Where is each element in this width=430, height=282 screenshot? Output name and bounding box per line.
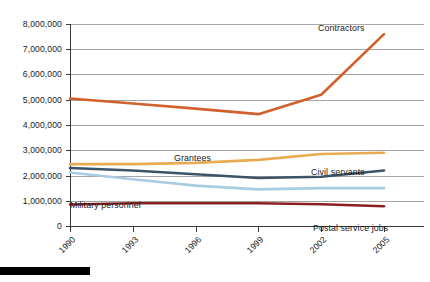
series-label-contractors: Contractors [318,23,365,33]
x-axis-label: 2002 [308,234,329,255]
y-axis-label: 6,000,000 [23,69,62,79]
x-axis-labels: 1990 1993 1996 1999 2002 2005 [57,234,392,255]
y-tickmarks [66,24,70,226]
x-axis-label: 2005 [371,234,392,255]
y-axis-label: 7,000,000 [23,44,62,54]
data-series-group [70,34,384,206]
x-axis-label: 1999 [245,234,266,255]
y-axis-label: 4,000,000 [23,120,62,130]
y-axis-label: 0 [57,221,62,231]
x-axis-label: 1993 [120,234,141,255]
series-annotations: ContractorsGranteesCivil servantsMilitar… [70,23,389,233]
series-label-civil-servants: Civil servants [311,167,365,177]
y-axis-label: 8,000,000 [23,19,62,29]
series-line-grantees [70,153,384,164]
y-axis-label: 3,000,000 [23,145,62,155]
y-axis-label: 2,000,000 [23,171,62,181]
footer-rule [0,267,90,275]
y-axis-label: 1,000,000 [23,196,62,206]
series-label-postal-service-jobs: Postal service jobs [313,223,389,233]
line-chart: 8,000,000 7,000,000 6,000,000 5,000,000 … [0,0,430,282]
y-axis-label: 5,000,000 [23,95,62,105]
series-label-grantees: Grantees [174,153,211,163]
series-label-military-personnel: Military personnel [70,200,141,210]
y-axis-labels: 8,000,000 7,000,000 6,000,000 5,000,000 … [23,19,62,231]
x-axis-label: 1996 [183,234,204,255]
x-axis-label: 1990 [57,234,78,255]
chart-container: 8,000,000 7,000,000 6,000,000 5,000,000 … [0,0,430,282]
